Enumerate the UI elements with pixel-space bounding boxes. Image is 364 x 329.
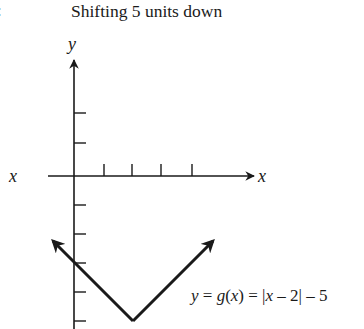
x-axis-label-right: x <box>257 166 266 186</box>
absolute-value-graph <box>53 241 213 321</box>
x-axis-label-left: x <box>8 166 17 186</box>
equation-label: y = g(x) = |x – 2| – 5 <box>189 286 327 305</box>
y-axis <box>74 60 86 329</box>
x-ticks <box>104 164 192 176</box>
x-axis <box>48 164 254 176</box>
y-axis-label: y <box>66 34 76 54</box>
coordinate-plane: x x y y = g(x) = |x – 2| – 5 <box>0 0 364 329</box>
y-ticks <box>74 113 86 321</box>
